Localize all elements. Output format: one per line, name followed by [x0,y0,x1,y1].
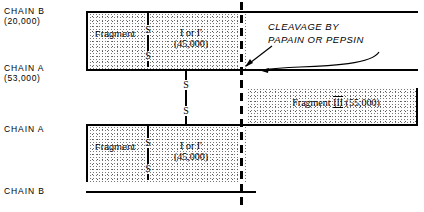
chain-label-chain-b-top: CHAIN B (20,000) [4,6,45,26]
cleavage-annotation-line1: CLEAVAGE BY [268,21,339,32]
disulfide-sulfur-upper: S [141,138,155,148]
fragment-id-name: I or I' [180,27,202,38]
fragment-id-mass: (45,000) [158,151,224,162]
fragment-three-numeral: III [333,97,343,108]
cleavage-annotation-line2: PAPAIN OR PEPSIN [268,34,364,47]
disulfide-sulfur-upper: S [179,80,193,90]
disulfide-bond-middle: S S [179,71,193,125]
chain-label-chain-a-top: CHAIN A (53,000) [4,63,44,83]
disulfide-bond-bottom: S S [141,126,155,180]
fragment-id-label-bottom: I or I' (45,000) [158,140,224,162]
chain-label-name: CHAIN A [4,124,44,134]
fragment-three-mass: (55,000) [346,97,380,108]
chain-line-chain-b-bottom [86,191,256,193]
fragment-three-word: Fragment [292,97,330,108]
fragment-id-label-top: I or I' (45,000) [158,27,224,49]
disulfide-sulfur-upper: S [141,25,155,35]
chain-label-name: CHAIN B [4,6,45,16]
disulfide-bond-top: S S [141,13,155,67]
disulfide-sulfur-lower: S [179,106,193,116]
cleavage-arrow-left [245,46,272,67]
chain-label-mass: (53,000) [4,73,44,83]
cleavage-dashed-line [240,2,243,210]
chain-label-mass: (20,000) [4,16,45,26]
fragment-label-bottom-left: Fragment [95,142,135,152]
chain-label-name: CHAIN A [4,63,44,73]
chain-label-name: CHAIN B [4,186,45,196]
diagram-canvas: CHAIN B (20,000) CHAIN A (53,000) CHAIN … [0,0,424,212]
fragment-id-name: I or I' [180,140,202,151]
chain-label-chain-a-bottom: CHAIN A [4,124,44,134]
fragment-box-top-right-sliver [243,13,246,69]
fragment-box-bottom-right-sliver [243,126,246,182]
disulfide-sulfur-lower: S [141,164,155,174]
cleavage-annotation: CLEAVAGE BY PAPAIN OR PEPSIN [268,21,364,46]
fragment-three-label: Fragment III (55,000) [262,97,410,108]
fragment-label-top-left: Fragment [95,29,135,39]
chain-label-chain-b-bottom: CHAIN B [4,186,45,196]
disulfide-sulfur-lower: S [141,51,155,61]
chain-line-chain-a-top [86,69,418,71]
fragment-id-mass: (45,000) [158,38,224,49]
